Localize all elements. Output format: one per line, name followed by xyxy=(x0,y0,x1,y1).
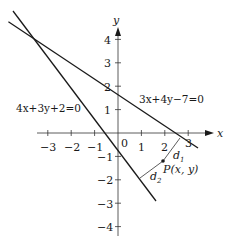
y-axis-label: y xyxy=(112,14,120,27)
y-tick-label: −1 xyxy=(97,151,113,164)
line-label-3x-4y-7: 3x+4y−7=0 xyxy=(139,93,204,105)
x-axis-label: x xyxy=(217,127,224,140)
y-tick-label: −2 xyxy=(97,174,113,187)
x-tick-label: 0 xyxy=(121,137,128,150)
y-tick-label: 3 xyxy=(104,57,111,70)
x-tick-label: −2 xyxy=(64,141,80,154)
x-tick-label: 2 xyxy=(161,141,168,154)
point-p-label: P(x, y) xyxy=(162,163,198,176)
x-axis-arrow-icon xyxy=(205,130,214,136)
y-tick-label: 1 xyxy=(104,104,111,117)
y-tick-label: −3 xyxy=(97,198,113,211)
y-tick-label: −4 xyxy=(97,221,113,234)
y-tick-label: 4 xyxy=(104,34,111,47)
distance-d1-label: d1 xyxy=(173,149,185,164)
x-tick-label: −3 xyxy=(40,141,56,154)
coordinate-plane: x y −3 −2 −1 0 1 2 3 4 3 2 1 −1 −2 −3 −4… xyxy=(0,0,235,244)
distance-d2-label: d2 xyxy=(150,170,162,185)
line-label-4x-3y-2: 4x+3y+2=0 xyxy=(16,102,81,114)
y-axis-arrow-icon xyxy=(115,27,121,36)
x-tick-label: 1 xyxy=(138,141,145,154)
